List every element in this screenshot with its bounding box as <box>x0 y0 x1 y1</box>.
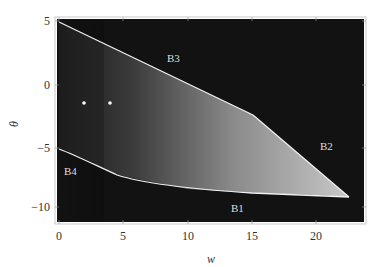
y-tick-neg5: −5 <box>37 141 50 155</box>
y-tick-0: 0 <box>44 78 50 92</box>
y-tick-5: 5 <box>44 14 50 28</box>
data-point-2 <box>108 101 112 105</box>
x-axis-label: w <box>207 252 215 266</box>
label-b4: B4 <box>64 165 77 177</box>
y-tick-neg10: −10 <box>31 200 50 214</box>
x-tick-20: 20 <box>310 229 322 243</box>
label-b2: B2 <box>320 140 333 152</box>
data-point-1 <box>82 101 86 105</box>
x-tick-15: 15 <box>246 229 258 243</box>
x-tick-5: 5 <box>120 229 126 243</box>
label-b3: B3 <box>167 52 180 64</box>
label-b1: B1 <box>231 202 244 214</box>
left-dark-band <box>59 20 104 221</box>
chart-canvas: B3 B2 B4 B1 0 5 10 15 20 5 0 −5 −10 w θ <box>0 0 386 267</box>
x-tick-0: 0 <box>56 229 62 243</box>
y-axis-label: θ <box>7 121 21 127</box>
x-tick-10: 10 <box>182 229 194 243</box>
